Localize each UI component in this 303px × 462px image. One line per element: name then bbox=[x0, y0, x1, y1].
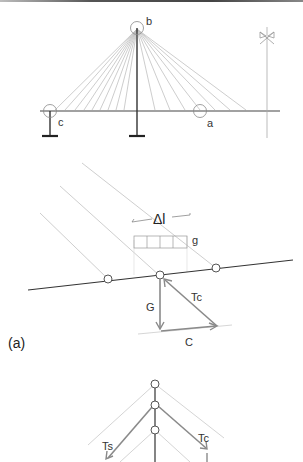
force-c-arrow bbox=[161, 326, 216, 331]
deck-force-detail bbox=[0, 0, 303, 462]
label-Tc: Tc bbox=[191, 292, 202, 303]
label-G: G bbox=[146, 302, 155, 313]
pylon-node-top bbox=[151, 380, 159, 388]
node-center bbox=[156, 271, 164, 279]
label-delta-l: Δl bbox=[153, 212, 165, 226]
node-right bbox=[212, 264, 220, 272]
pylon-node-middle bbox=[151, 401, 159, 409]
pylon-node-lower bbox=[151, 426, 159, 434]
label-C: C bbox=[185, 337, 193, 348]
label-Ts: Ts bbox=[102, 441, 113, 452]
label-g-load: g bbox=[192, 235, 198, 246]
force-tc-arrow bbox=[165, 280, 217, 326]
distributed-load bbox=[134, 236, 187, 248]
projection-lines bbox=[134, 236, 187, 275]
panel-label: (a) bbox=[8, 336, 25, 350]
detail-cables bbox=[40, 163, 216, 279]
label-Tc-pylon: Tc bbox=[198, 433, 209, 444]
node-left bbox=[104, 275, 112, 283]
force-ts-arrow bbox=[108, 406, 153, 458]
